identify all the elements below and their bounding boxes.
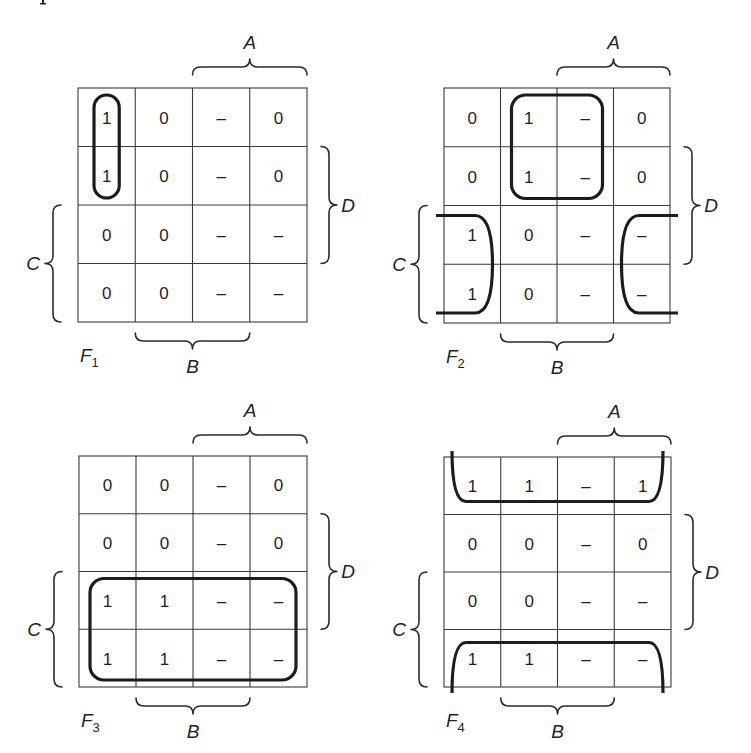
kmap-cell: 1 bbox=[160, 592, 169, 611]
kmap-cell: 0 bbox=[159, 226, 168, 245]
kmap-cell: 0 bbox=[524, 226, 533, 245]
kmap-cell: 1 bbox=[524, 109, 533, 128]
kmap-cell: 1 bbox=[102, 109, 111, 128]
kmap-cell: – bbox=[581, 226, 591, 245]
kmap-cell: – bbox=[216, 109, 226, 128]
kmap-cell: 0 bbox=[274, 534, 283, 553]
label-d: D bbox=[704, 195, 718, 216]
brace-b bbox=[135, 333, 250, 349]
kmap-cell: – bbox=[638, 592, 648, 611]
brace-a bbox=[557, 59, 670, 75]
function-label: F1 bbox=[80, 345, 99, 370]
brace-b bbox=[501, 698, 615, 714]
kmap-cell: – bbox=[274, 650, 284, 669]
brace-d bbox=[685, 515, 701, 630]
kmap-cell: 0 bbox=[468, 592, 477, 611]
kmap-cell: 0 bbox=[637, 168, 646, 187]
brace-a bbox=[193, 59, 308, 75]
kmap-cell: 0 bbox=[159, 167, 168, 186]
kmap-cell: 1 bbox=[468, 477, 477, 496]
kmap-cell: – bbox=[216, 226, 226, 245]
label-d: D bbox=[341, 195, 355, 216]
kmap-cell: 0 bbox=[638, 535, 647, 554]
kmap-cell: 1 bbox=[103, 592, 112, 611]
kmap-cell: 1 bbox=[638, 477, 647, 496]
kmap-cell: – bbox=[581, 168, 591, 187]
kmap-cell: – bbox=[274, 226, 284, 245]
kmap-cell: 1 bbox=[102, 167, 111, 186]
kmap-cell: 0 bbox=[160, 476, 169, 495]
kmap-cell: 0 bbox=[274, 167, 283, 186]
kmap-cell: 0 bbox=[524, 535, 533, 554]
kmap-cell: 0 bbox=[102, 284, 111, 303]
kmap-cell: – bbox=[217, 592, 227, 611]
label-d: D bbox=[341, 561, 355, 582]
kmap-cell: – bbox=[216, 284, 226, 303]
brace-c bbox=[45, 205, 61, 322]
brace-c bbox=[46, 572, 62, 688]
kmap-cell: – bbox=[581, 285, 591, 304]
kmap-f3: 00–000–011––11––ABCDF3 bbox=[27, 400, 355, 742]
brace-d bbox=[684, 147, 700, 265]
kmap-cell: 0 bbox=[160, 534, 169, 553]
kmap-cell: 1 bbox=[103, 650, 112, 669]
kmap-cell: 0 bbox=[524, 285, 533, 304]
kmap-cell: 0 bbox=[102, 226, 111, 245]
kmap-cell: – bbox=[581, 109, 591, 128]
label-b: B bbox=[187, 721, 200, 742]
kmap-cell: 0 bbox=[524, 592, 533, 611]
label-c: C bbox=[26, 253, 40, 274]
kmap-cell: 1 bbox=[524, 168, 533, 187]
kmap-cell: 0 bbox=[468, 109, 477, 128]
label-d: D bbox=[705, 562, 719, 583]
kmap-f2: 01–001–010––10––ABCDF2 bbox=[392, 32, 718, 378]
kmap-cell: 0 bbox=[274, 476, 283, 495]
label-c: C bbox=[392, 254, 406, 275]
kmap-cell: – bbox=[581, 535, 591, 554]
kmap-cell: – bbox=[637, 226, 647, 245]
kmap-cell: – bbox=[581, 650, 591, 669]
kmap-cell: – bbox=[274, 284, 284, 303]
kmap-cell: 0 bbox=[159, 109, 168, 128]
label-b: B bbox=[551, 357, 564, 378]
function-label: F4 bbox=[446, 710, 465, 735]
brace-a bbox=[558, 428, 672, 444]
kmap-cell: – bbox=[217, 650, 227, 669]
kmap-cell: 0 bbox=[468, 168, 477, 187]
kmap-cell: 0 bbox=[103, 476, 112, 495]
label-a: A bbox=[243, 400, 257, 421]
kmap-cell: – bbox=[581, 592, 591, 611]
label-a: A bbox=[242, 32, 256, 53]
label-a: A bbox=[606, 32, 620, 53]
kmap-cell: – bbox=[638, 650, 648, 669]
brace-d bbox=[321, 514, 337, 630]
label-c: C bbox=[27, 619, 41, 640]
brace-c bbox=[411, 572, 427, 687]
label-b: B bbox=[186, 356, 199, 377]
kmap-f4: 11–100–000––11––ABCDF4 bbox=[392, 401, 719, 742]
brace-d bbox=[321, 147, 337, 264]
function-label: F2 bbox=[446, 346, 465, 371]
label-b: B bbox=[551, 721, 564, 742]
label-a: A bbox=[607, 401, 621, 422]
kmap-cell: – bbox=[274, 592, 284, 611]
kmap-cell: 0 bbox=[637, 109, 646, 128]
kmap-cell: – bbox=[581, 477, 591, 496]
kmap-cell: – bbox=[637, 285, 647, 304]
kmap-cell: 1 bbox=[468, 226, 477, 245]
kmap-figure: 10–010–000––00––ABCDF1 01–001–010––10––A… bbox=[0, 0, 751, 753]
kmap-cell: 1 bbox=[160, 650, 169, 669]
kmap-cell: 1 bbox=[468, 650, 477, 669]
label-c: C bbox=[392, 619, 406, 640]
kmap-cell: – bbox=[216, 167, 226, 186]
kmap-f1: 10–010–000––00––ABCDF1 bbox=[26, 32, 355, 377]
brace-b bbox=[501, 334, 614, 350]
kmap-cell: – bbox=[217, 534, 227, 553]
kmap-cell: 1 bbox=[524, 477, 533, 496]
kmap-cell: 0 bbox=[103, 534, 112, 553]
cropped-text-fragment-foot bbox=[40, 3, 46, 5]
kmap-cell: 0 bbox=[159, 284, 168, 303]
kmap-cell: 1 bbox=[524, 650, 533, 669]
brace-c bbox=[411, 206, 427, 324]
kmap-cell: 0 bbox=[274, 109, 283, 128]
